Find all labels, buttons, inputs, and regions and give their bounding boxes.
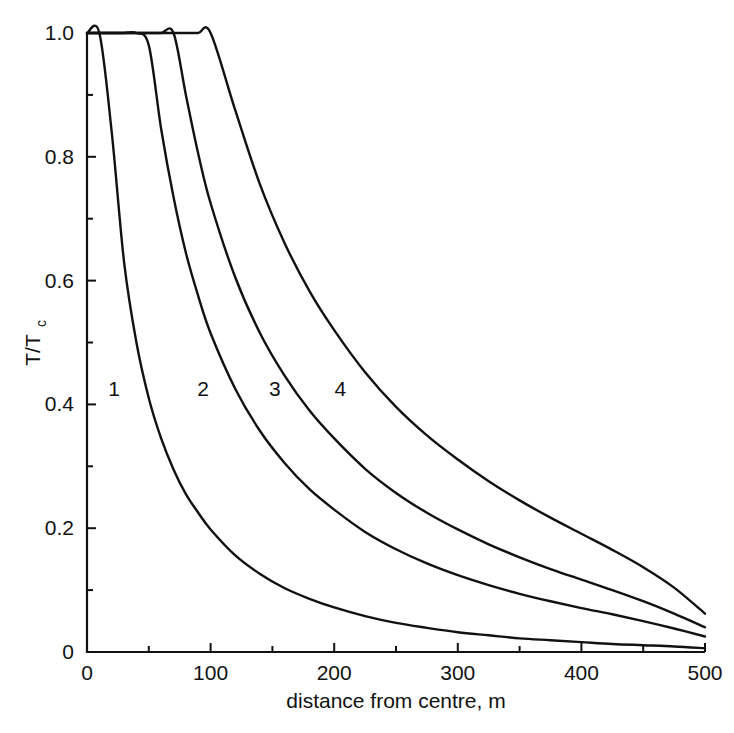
curve-1 <box>87 26 705 649</box>
curve-label-1: 1 <box>108 377 120 400</box>
y-axis-title-main: T/T <box>21 334 44 366</box>
x-tick-label: 100 <box>193 661 228 684</box>
y-axis-title: T/T c <box>21 320 49 366</box>
curve-3 <box>87 28 705 627</box>
x-tick-label: 200 <box>317 661 352 684</box>
y-tick-label: 0.8 <box>45 145 74 168</box>
axes <box>87 33 705 652</box>
curve-label-3: 3 <box>269 377 281 400</box>
x-tick-label: 400 <box>564 661 599 684</box>
y-tick-label: 1.0 <box>45 21 74 44</box>
chart-page: 010020030040050000.20.40.60.81.0 1234 di… <box>0 0 734 733</box>
curve-label-4: 4 <box>335 377 347 400</box>
x-tick-label: 500 <box>687 661 722 684</box>
y-axis-title-subscript: c <box>33 320 49 327</box>
y-tick-label: 0.2 <box>45 516 74 539</box>
curve-2 <box>87 32 705 636</box>
x-tick-label: 0 <box>81 661 93 684</box>
data-curves <box>87 26 705 649</box>
line-chart: 010020030040050000.20.40.60.81.0 1234 di… <box>0 0 734 733</box>
y-tick-label: 0.4 <box>45 392 75 415</box>
x-axis-title: distance from centre, m <box>286 689 505 712</box>
y-tick-label: 0.6 <box>45 269 74 292</box>
y-tick-label: 0 <box>62 640 74 663</box>
tick-labels: 010020030040050000.20.40.60.81.0 <box>45 21 723 684</box>
curve-label-2: 2 <box>197 377 209 400</box>
tick-marks <box>87 33 705 652</box>
x-tick-label: 300 <box>440 661 475 684</box>
axis-lines <box>87 33 705 652</box>
curve-4 <box>87 27 705 613</box>
